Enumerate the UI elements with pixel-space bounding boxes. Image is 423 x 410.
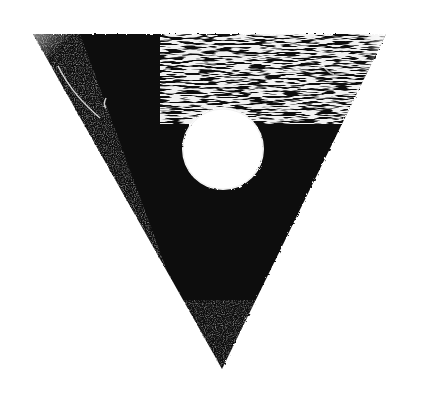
triangle-circle-artwork xyxy=(0,0,423,410)
white-circle xyxy=(182,108,264,190)
